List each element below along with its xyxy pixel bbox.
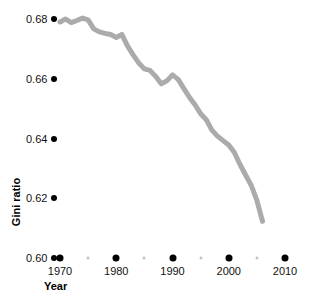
x-axis-tick-dot-1990 [169,255,176,262]
x-axis-minor-tick-dot-1995 [199,257,202,260]
x-axis-tick-label-1970: 1970 [48,265,72,277]
x-axis-tick-dot-2010 [282,255,289,262]
y-axis-tick-label: 0.66 [26,73,47,85]
x-axis-tick-label-1980: 1980 [104,265,128,277]
y-axis-tick-dot [51,16,57,22]
y-axis-tick-dot [51,76,57,82]
y-axis-tick-0-66: 0.66 [26,73,57,85]
y-axis-tick-dot [51,195,57,201]
y-axis-tick-0-64: 0.64 [26,133,57,145]
x-axis-tick-label-2000: 2000 [217,265,241,277]
x-axis-tick-dot-1980 [113,255,120,262]
y-axis-tick-0-60: 0.60 [26,252,57,264]
x-axis-minor-tick-dot-1985 [143,257,146,260]
y-axis-tick-0-68: 0.68 [26,13,57,25]
x-axis-title: Year [44,280,67,292]
y-axis-tick-label: 0.60 [26,252,47,264]
x-axis-tick-dot-1970 [57,255,64,262]
y-axis-tick-label: 0.62 [26,192,47,204]
y-axis-tick-0-62: 0.62 [26,192,57,204]
data-series-line [60,18,263,221]
y-axis-tick-label: 0.64 [26,133,47,145]
x-axis-tick-label-2010: 2010 [273,265,297,277]
x-axis-tick-dot-2000 [225,255,232,262]
y-axis-tick-dot [51,136,57,142]
y-axis-title: Gini ratio [10,172,22,232]
x-axis-minor-tick-dot-1975 [87,257,90,260]
x-axis-tick-label-1990: 1990 [160,265,184,277]
y-axis-tick-label: 0.68 [26,13,47,25]
x-axis-minor-tick-dot-2005 [255,257,258,260]
chart-container: 0.680.660.640.620.60 1970198019902000201… [0,0,318,304]
